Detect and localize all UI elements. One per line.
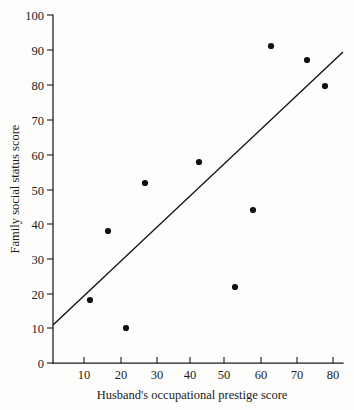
y-axis-ticks xyxy=(47,15,53,363)
x-axis-title: Husband's occupational prestige score xyxy=(97,388,288,402)
x-axis-tick-labels: 10 20 30 40 50 60 70 80 xyxy=(78,368,340,382)
y-tick-label-10: 10 xyxy=(32,322,45,336)
data-point xyxy=(196,159,202,165)
data-point xyxy=(105,228,111,234)
data-point xyxy=(268,43,274,49)
data-point xyxy=(250,207,256,213)
x-axis-ticks xyxy=(84,357,333,363)
data-point xyxy=(322,83,328,89)
x-tick-label-40: 40 xyxy=(184,368,197,382)
y-tick-label-50: 50 xyxy=(32,184,45,198)
y-axis-title: Family social status score xyxy=(8,124,22,253)
data-point xyxy=(304,57,310,63)
x-tick-label-80: 80 xyxy=(327,368,340,382)
x-tick-label-60: 60 xyxy=(255,368,268,382)
y-tick-label-20: 20 xyxy=(32,288,45,302)
x-tick-label-30: 30 xyxy=(151,368,164,382)
x-tick-label-70: 70 xyxy=(291,368,304,382)
y-tick-label-40: 40 xyxy=(32,218,45,232)
y-tick-label-0: 0 xyxy=(38,357,44,371)
plot-canvas: 100 90 80 70 60 50 40 30 20 10 0 10 20 xyxy=(0,0,354,410)
y-tick-label-90: 90 xyxy=(32,44,45,58)
x-tick-label-20: 20 xyxy=(115,368,128,382)
regression-trend-line xyxy=(53,52,343,325)
y-tick-label-30: 30 xyxy=(32,253,45,267)
data-point xyxy=(232,284,238,290)
data-point xyxy=(87,297,93,303)
data-point xyxy=(142,180,148,186)
x-tick-label-50: 50 xyxy=(218,368,231,382)
y-axis-tick-labels: 100 90 80 70 60 50 40 30 20 10 0 xyxy=(25,9,44,371)
y-tick-label-60: 60 xyxy=(32,149,45,163)
data-point xyxy=(123,325,129,331)
scatter-plot-figure: 100 90 80 70 60 50 40 30 20 10 0 10 20 xyxy=(0,0,354,410)
y-tick-label-100: 100 xyxy=(25,9,44,23)
data-point-series xyxy=(87,43,328,331)
x-tick-label-10: 10 xyxy=(78,368,91,382)
y-tick-label-80: 80 xyxy=(32,79,45,93)
y-tick-label-70: 70 xyxy=(32,114,45,128)
